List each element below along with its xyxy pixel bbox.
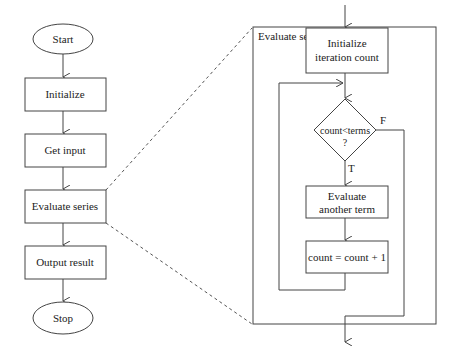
output-result-label: Output result <box>36 256 94 268</box>
start-node: Start <box>33 24 93 54</box>
flowchart: Start Initialize Get input Evaluate seri… <box>0 0 456 357</box>
initialize-node: Initialize <box>25 78 106 111</box>
get-input-node: Get input <box>25 134 106 167</box>
evaluate-series-node: Evaluate series <box>25 190 106 223</box>
start-label: Start <box>53 33 74 45</box>
true-label: T <box>348 162 355 174</box>
zoom-connector-top <box>106 28 252 190</box>
evaluate-series-label: Evaluate series <box>32 200 98 212</box>
false-label: F <box>380 114 386 126</box>
decision-line1: count<terms <box>320 125 370 136</box>
decision-line2: ? <box>343 137 348 148</box>
eval-line2: another term <box>319 203 375 215</box>
zoom-connector-bottom <box>106 223 252 324</box>
increment-node: count = count + 1 <box>306 241 388 273</box>
evaluate-term-node: Evaluate another term <box>306 186 388 218</box>
stop-label: Stop <box>53 312 74 324</box>
eval-line1: Evaluate <box>328 190 367 202</box>
decision-node: count<terms ? <box>314 99 376 161</box>
initialize-label: Initialize <box>45 88 84 100</box>
stop-node: Stop <box>33 302 93 334</box>
increment-label: count = count + 1 <box>308 251 386 263</box>
init-line1: Initialize <box>327 37 366 49</box>
init-line2: iteration count <box>315 51 379 63</box>
get-input-label: Get input <box>44 144 85 156</box>
output-result-node: Output result <box>25 246 106 279</box>
init-iteration-node: Initialize iteration count <box>306 28 388 73</box>
